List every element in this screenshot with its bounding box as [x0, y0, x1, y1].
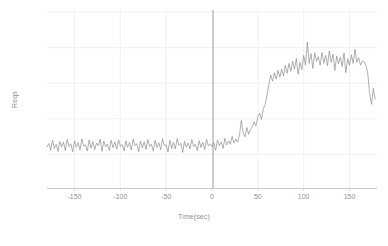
data-series-line: [47, 42, 375, 152]
plot-canvas: [0, 0, 388, 246]
vertical-gridlines: [75, 10, 350, 188]
x-tick-label: 0: [192, 193, 232, 200]
horizontal-gridlines: [47, 12, 377, 154]
x-tick-label: -100: [100, 193, 140, 200]
x-tick-label: 50: [238, 193, 278, 200]
x-tick-label: -50: [146, 193, 186, 200]
y-axis-title: Reqs: [11, 80, 18, 120]
x-tick-label: 150: [330, 193, 370, 200]
x-tick-label: -150: [55, 193, 95, 200]
x-tick-label: 100: [284, 193, 324, 200]
x-axis-title: Time(sec): [0, 213, 388, 220]
chart-figure: Time(sec) Reqs -150-100-50050100150: [0, 0, 388, 246]
